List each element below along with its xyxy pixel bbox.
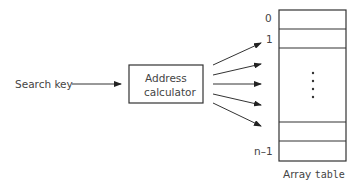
array-caption-prefix: Array [283, 168, 315, 180]
array-caption-name: table [315, 169, 345, 180]
arrow-1 [213, 43, 261, 65]
hashing-diagram: Search key Address calculator 0 1 n–1 Ar… [0, 0, 360, 187]
array-table [279, 10, 346, 161]
arrow-4 [213, 94, 261, 105]
index-label-0: 0 [265, 12, 272, 24]
arrow-5 [213, 103, 261, 126]
calculator-label-line2: calculator [144, 86, 196, 98]
calculator-label-line1: Address [145, 72, 187, 84]
index-label-n-minus-1: n–1 [254, 145, 273, 157]
search-key-label: Search key [15, 78, 73, 90]
array-caption: Array table [283, 168, 345, 180]
arrow-2 [213, 64, 261, 75]
index-label-1: 1 [266, 33, 273, 45]
output-arrows [213, 43, 261, 126]
